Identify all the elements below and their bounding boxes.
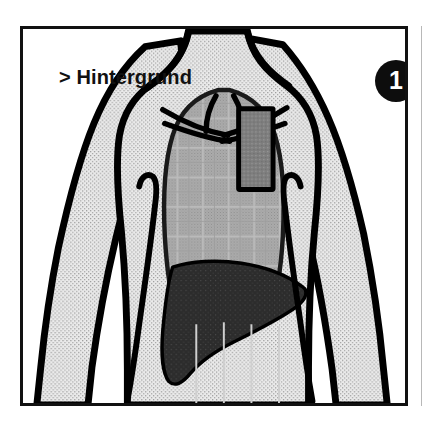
step-number-value: 1 (389, 68, 403, 93)
sternum-marker-rect (239, 109, 273, 190)
sternum-marker-region (239, 109, 273, 190)
adjacent-panel-edge (421, 26, 430, 406)
page-root: > Hintergrund 1 (0, 0, 430, 429)
panel-caption: > Hintergrund (59, 65, 192, 89)
figure-panel: > Hintergrund 1 (20, 26, 408, 406)
